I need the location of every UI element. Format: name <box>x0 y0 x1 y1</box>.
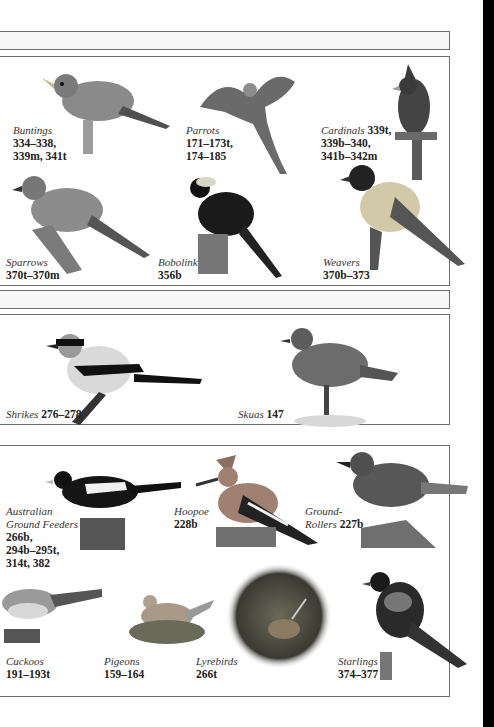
bird-name: Parrots <box>186 124 219 136</box>
page-ref: 227b <box>340 518 364 530</box>
caption-lyrebirds: Lyrebirds 266t <box>196 655 238 681</box>
page-ref: 159–164 <box>104 668 144 680</box>
caption-hoopoe: Hoopoe 228b <box>174 505 209 531</box>
caption-cardinals: Cardinals 339t, 339b–340, 341b–342m <box>321 124 391 163</box>
page-ref: 334–338, <box>13 137 56 149</box>
page-ref: 171–173t, <box>186 137 233 149</box>
bird-name: Shrikes <box>6 408 38 420</box>
page-ref: 276–278 <box>41 408 81 420</box>
caption-cuckoos: Cuckoos 191–193t <box>6 655 50 681</box>
bird-name: Australian <box>6 505 52 517</box>
page-ref: 356b <box>158 269 182 281</box>
bird-name: Bobolink <box>158 256 198 268</box>
page-ref: 339m, 341t <box>13 150 67 162</box>
caption-starlings: Starlings 374–377 <box>338 655 378 681</box>
bird-name: Ground Feeders <box>6 518 78 530</box>
pigeon-image <box>122 592 217 647</box>
skua-image <box>280 325 400 430</box>
page-ref: 370b–373 <box>323 269 370 281</box>
bird-name: Cuckoos <box>6 655 44 667</box>
caption-australian-ground-feeders: Australian Ground Feeders 266b, 294b–295… <box>6 505 78 570</box>
bird-name: Rollers <box>305 518 337 530</box>
page-ref: 339b–340, <box>321 137 371 149</box>
bird-name: Sparrows <box>6 256 48 268</box>
bird-name: Weavers <box>323 256 360 268</box>
caption-sparrows: Sparrows 370t–370m <box>6 256 60 282</box>
caption-skuas: Skuas 147 <box>238 408 284 421</box>
page-ref: 314t, 382 <box>6 557 50 569</box>
header-band <box>0 31 450 50</box>
page-ref: 174–185 <box>186 150 226 162</box>
bird-name: Buntings <box>13 124 52 136</box>
cuckoo-image <box>0 585 105 645</box>
page-ref: 191–193t <box>6 668 50 680</box>
page-ref: 147 <box>267 408 284 420</box>
bird-name: Hoopoe <box>174 505 209 517</box>
page-edge-shadow <box>483 0 494 727</box>
hoopoe-image <box>188 455 323 550</box>
caption-shrikes: Shrikes 276–278 <box>6 408 82 421</box>
bird-name: Ground- <box>305 505 342 517</box>
page-ref: 294b–295t, <box>6 544 59 556</box>
lyrebird-image <box>226 563 332 669</box>
page-ref: 266b, <box>6 531 33 543</box>
bird-name: Starlings <box>338 655 378 667</box>
caption-weavers: Weavers 370b–373 <box>323 256 370 282</box>
starling-image <box>362 572 472 682</box>
caption-pigeons: Pigeons 159–164 <box>104 655 144 681</box>
section-divider-band <box>0 290 450 309</box>
bird-name: Cardinals <box>321 124 365 136</box>
bird-name: Pigeons <box>104 655 139 667</box>
ground-roller-image <box>336 450 471 550</box>
page-ref: 339t, <box>367 124 391 136</box>
caption-parrots: Parrots 171–173t, 174–185 <box>186 124 233 163</box>
page-ref: 266t <box>196 668 217 680</box>
page-ref: 228b <box>174 518 198 530</box>
bird-name: Lyrebirds <box>196 655 238 667</box>
caption-ground-rollers: Ground- Rollers 227b <box>305 505 363 531</box>
caption-buntings: Buntings 334–338, 339m, 341t <box>13 124 67 163</box>
caption-bobolink: Bobolink 356b <box>158 256 198 282</box>
page-ref: 341b–342m <box>321 150 377 162</box>
page-ref: 374–377 <box>338 668 378 680</box>
bird-name: Skuas <box>238 408 264 420</box>
page-ref: 370t–370m <box>6 269 60 281</box>
bobolink-image <box>184 174 284 279</box>
